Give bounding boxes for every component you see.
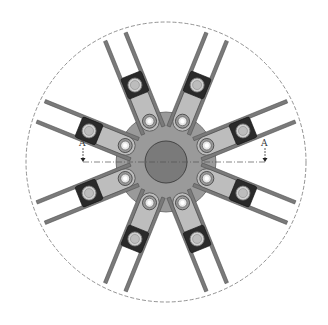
section-label-right: A: [260, 138, 268, 148]
section-arrow-head-left: [81, 158, 86, 162]
arm-3: [193, 100, 296, 162]
arm-8: [36, 100, 139, 162]
arm-7: [36, 163, 139, 225]
assembly-drawing: AA: [0, 0, 328, 325]
diagram-canvas: AA: [0, 0, 328, 325]
arm-4: [193, 163, 296, 225]
section-label-left: A: [78, 138, 86, 148]
arm-6: [104, 189, 166, 292]
arm-1: [104, 32, 166, 135]
arm-5: [167, 189, 229, 292]
arm-2: [167, 32, 229, 135]
section-arrow-head-right: [263, 158, 268, 162]
